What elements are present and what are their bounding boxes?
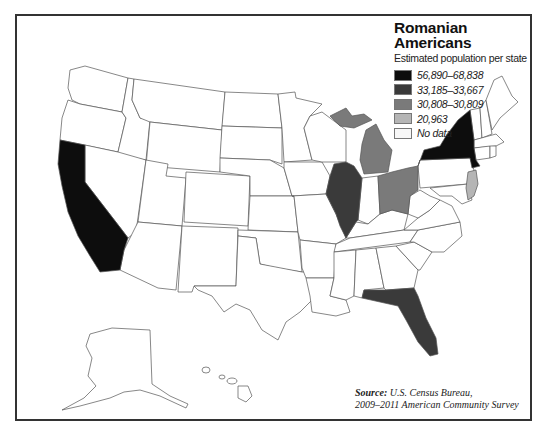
map-legend: Romanian Americans Estimated population … <box>394 20 529 141</box>
legend-label: 33,185–33,667 <box>417 84 483 96</box>
state-florida[interactable] <box>362 288 438 356</box>
legend-label: No data <box>417 127 452 139</box>
legend-title-line1: Romanian <box>394 20 529 35</box>
legend-label: 30,808–30,809 <box>417 98 483 110</box>
state-colorado[interactable] <box>184 172 250 226</box>
state-pennsylvania[interactable] <box>418 158 474 188</box>
legend-swatch <box>394 70 412 81</box>
legend-label: 56,890–68,838 <box>417 69 483 81</box>
legend-swatch <box>394 99 412 110</box>
state-arkansas[interactable] <box>300 240 336 278</box>
state-connecticut[interactable] <box>474 146 490 160</box>
legend-item: 20,963 <box>394 112 529 127</box>
legend-item: No data <box>394 126 529 141</box>
state-utah[interactable] <box>138 160 186 226</box>
source-line2: 2009–2011 American Community Survey <box>355 399 519 411</box>
legend-item: 56,890–68,838 <box>394 68 529 83</box>
legend-swatch <box>394 113 412 124</box>
legend-item: 33,185–33,667 <box>394 83 529 98</box>
legend-swatch <box>394 84 412 95</box>
state-kansas[interactable] <box>248 196 298 232</box>
state-hawaii[interactable] <box>202 367 252 402</box>
source-note: Source: U.S. Census Bureau, 2009–2011 Am… <box>355 387 519 411</box>
state-north-dakota[interactable] <box>222 92 282 128</box>
legend-label: 20,963 <box>417 113 447 125</box>
state-michigan-lower[interactable] <box>360 124 392 174</box>
source-line1: U.S. Census Bureau, <box>390 387 473 398</box>
state-alaska[interactable] <box>62 328 188 410</box>
legend-title-line2: Americans <box>394 35 529 50</box>
legend-subtitle: Estimated population per state <box>394 52 529 64</box>
state-rhode-island[interactable] <box>490 146 496 158</box>
source-label: Source: <box>355 387 387 398</box>
state-new-jersey[interactable] <box>466 170 478 200</box>
legend-swatch <box>394 128 412 139</box>
state-iowa[interactable] <box>284 162 330 196</box>
state-mississippi[interactable] <box>330 250 356 300</box>
legend-item: 30,808–30,809 <box>394 97 529 112</box>
state-new-mexico[interactable] <box>178 226 238 292</box>
